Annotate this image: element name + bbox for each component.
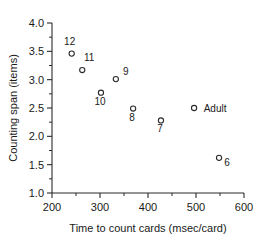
x-tick-label: 200 (43, 201, 61, 213)
y-tick-label: 1.0 (29, 187, 44, 199)
x-tick-label: 500 (187, 201, 205, 213)
y-tick-label: 3.0 (29, 74, 44, 86)
data-point-marker (191, 105, 196, 110)
x-tick-label: 400 (139, 201, 157, 213)
data-point-label: 6 (224, 157, 230, 168)
data-point-label: 8 (129, 112, 135, 123)
data-point-marker (158, 118, 163, 123)
scatter-chart: 2003004005006001.01.52.02.53.03.54.01211… (0, 0, 272, 241)
data-point-label: 9 (123, 66, 129, 77)
y-tick-label: 4.0 (29, 17, 44, 29)
data-point-marker (113, 77, 118, 82)
x-tick-label: 300 (91, 201, 109, 213)
x-axis-title: Time to count cards (msec/card) (69, 222, 226, 234)
y-tick-label: 2.5 (29, 102, 44, 114)
data-point-marker (98, 90, 103, 95)
data-point-label: Adult (204, 103, 227, 114)
y-tick-label: 1.5 (29, 159, 44, 171)
x-tick-label: 600 (235, 201, 253, 213)
data-point-label: 12 (64, 36, 76, 47)
data-point-label: 11 (84, 52, 95, 63)
data-point-marker (69, 51, 74, 56)
data-point-label: 10 (94, 96, 106, 107)
y-axis-title: Counting span (items) (7, 54, 19, 162)
plot-area: 2003004005006001.01.52.02.53.03.54.01211… (0, 0, 272, 241)
data-point-marker (80, 67, 85, 72)
y-tick-label: 3.5 (29, 45, 44, 57)
y-tick-label: 2.0 (29, 130, 44, 142)
data-point-marker (131, 106, 136, 111)
data-point-marker (216, 155, 221, 160)
data-point-label: 7 (157, 123, 163, 134)
